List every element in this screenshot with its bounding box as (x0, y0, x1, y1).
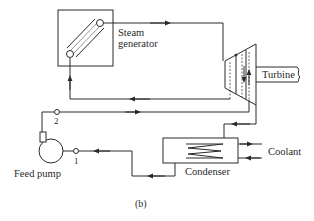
feed-pump-label: Feed pump (14, 168, 61, 179)
condensate-line (79, 151, 175, 176)
turbine-icon (225, 44, 256, 105)
steam-generator-label-line1: Steam (118, 27, 158, 38)
state-point-1-marker (74, 149, 79, 154)
coolant-label: Coolant (268, 146, 301, 157)
reheat-return-line (70, 58, 230, 99)
steam-generator-label-line2: generator (118, 38, 158, 49)
condenser-box (163, 138, 238, 163)
steam-generator-label: Steam generator (118, 27, 158, 49)
condenser-label: Condenser (185, 166, 230, 177)
state-point-1-label: 1 (74, 156, 79, 167)
condenser-coil-icon (186, 144, 223, 158)
state-point-2-label: 2 (54, 116, 59, 127)
figure-caption: (b) (135, 198, 147, 209)
feed-pump-icon (39, 139, 63, 163)
state-point-2-marker (55, 110, 60, 115)
steam-generator-box (58, 10, 113, 66)
steam-generator-tube-icon (67, 19, 105, 58)
feedwater-line (60, 100, 249, 112)
turbine-label: Turbine (262, 69, 295, 80)
exhaust-line (224, 105, 256, 138)
